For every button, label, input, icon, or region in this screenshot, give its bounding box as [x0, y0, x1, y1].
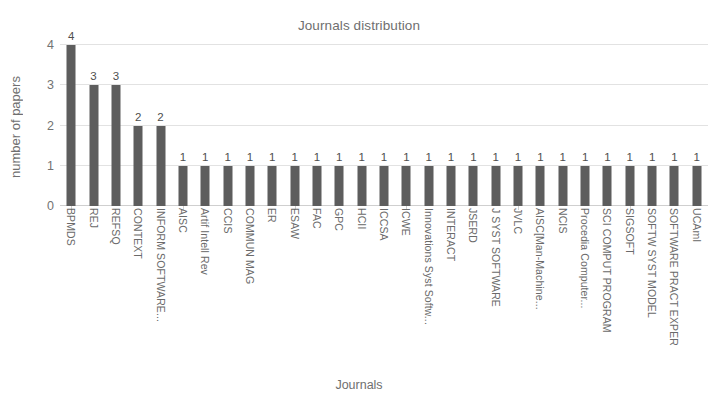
bar[interactable] — [379, 166, 388, 206]
bar[interactable] — [536, 166, 545, 206]
bar[interactable] — [245, 166, 254, 206]
x-axis-label: SIGSOFT — [624, 208, 636, 255]
bar-slot[interactable]: 1 — [373, 45, 395, 206]
bar-value-label: 3 — [113, 70, 119, 82]
bar-slot[interactable]: 1 — [350, 45, 372, 206]
bar[interactable] — [89, 85, 98, 206]
x-axis-label: ICCSA — [378, 208, 390, 241]
x-axis-label: INTERACT — [445, 208, 457, 261]
y-tick-label-0: 0 — [47, 199, 54, 213]
bar-slot[interactable]: 1 — [261, 45, 283, 206]
bar[interactable] — [312, 166, 321, 206]
bar-value-label: 1 — [537, 151, 543, 163]
x-axis-label: JVLC — [512, 208, 524, 234]
bar[interactable] — [424, 166, 433, 206]
bar[interactable] — [402, 166, 411, 206]
bar-slot[interactable]: 1 — [619, 45, 641, 206]
bar-slot[interactable]: 1 — [507, 45, 529, 206]
x-axis-label: NCIS — [557, 208, 569, 234]
x-axis-label: REJ — [88, 208, 100, 228]
journals-distribution-chart: Journals distribution number of papers 0… — [0, 0, 718, 418]
bar-slot[interactable]: 4 — [60, 45, 82, 206]
bar-slot[interactable]: 1 — [306, 45, 328, 206]
bar-slot[interactable]: 1 — [641, 45, 663, 206]
bar[interactable] — [201, 166, 210, 206]
x-axis-label: SOFTWARE PRACT EXPER — [668, 208, 680, 346]
bar-value-label: 3 — [90, 70, 96, 82]
bar-value-label: 1 — [470, 151, 476, 163]
bar-slot[interactable]: 1 — [239, 45, 261, 206]
bar-value-label: 1 — [493, 151, 499, 163]
bar[interactable] — [447, 166, 456, 206]
bars-series: 43322111111111111111111111111 — [60, 45, 708, 206]
bar-value-label: 1 — [425, 151, 431, 163]
bar[interactable] — [156, 126, 165, 207]
bar-slot[interactable]: 1 — [216, 45, 238, 206]
bar[interactable] — [692, 166, 701, 206]
bar-slot[interactable]: 1 — [440, 45, 462, 206]
y-tick-label-3: 3 — [47, 78, 54, 92]
bar-slot[interactable]: 1 — [529, 45, 551, 206]
x-axis-label: AISC — [177, 208, 189, 233]
bar-value-label: 1 — [515, 151, 521, 163]
x-axis-label: FAC — [311, 208, 323, 229]
bar-slot[interactable]: 3 — [105, 45, 127, 206]
bar[interactable] — [335, 166, 344, 206]
bar-slot[interactable]: 1 — [574, 45, 596, 206]
bar-value-label: 1 — [560, 151, 566, 163]
bar[interactable] — [357, 166, 366, 206]
bar[interactable] — [178, 166, 187, 206]
bar[interactable] — [223, 166, 232, 206]
bar[interactable] — [514, 166, 523, 206]
bar-slot[interactable]: 1 — [462, 45, 484, 206]
bar-slot[interactable]: 2 — [149, 45, 171, 206]
bar[interactable] — [603, 166, 612, 206]
x-axis-label: SOFTW SYST MODEL — [646, 208, 658, 318]
bar[interactable] — [290, 166, 299, 206]
bar-slot[interactable]: 1 — [395, 45, 417, 206]
bar[interactable] — [670, 166, 679, 206]
bar-slot[interactable]: 1 — [283, 45, 305, 206]
bar[interactable] — [581, 166, 590, 206]
bar-slot[interactable]: 2 — [127, 45, 149, 206]
bar-slot[interactable]: 1 — [663, 45, 685, 206]
bar[interactable] — [491, 166, 500, 206]
bar-value-label: 1 — [269, 151, 275, 163]
bar-slot[interactable]: 1 — [485, 45, 507, 206]
x-axis-label: CONTEXT — [132, 208, 144, 259]
bar-value-label: 1 — [627, 151, 633, 163]
bar-value-label: 1 — [403, 151, 409, 163]
bar-slot[interactable]: 3 — [82, 45, 104, 206]
bar[interactable] — [625, 166, 634, 206]
bar[interactable] — [469, 166, 478, 206]
bar[interactable] — [111, 85, 120, 206]
bar[interactable] — [648, 166, 657, 206]
bar-value-label: 1 — [694, 151, 700, 163]
bar[interactable] — [558, 166, 567, 206]
x-axis-label: Artif Intell Rev — [199, 208, 211, 275]
bar-slot[interactable]: 1 — [552, 45, 574, 206]
bar[interactable] — [268, 166, 277, 206]
x-axis-label: Procedia Computer... — [579, 208, 591, 309]
bar-value-label: 1 — [202, 151, 208, 163]
x-axis-label: JSERD — [467, 208, 479, 243]
bar[interactable] — [67, 45, 76, 206]
bar-slot[interactable]: 1 — [686, 45, 708, 206]
x-axis-label: J SYST SOFTWARE — [490, 208, 502, 307]
bar-value-label: 1 — [291, 151, 297, 163]
bar-slot[interactable]: 1 — [172, 45, 194, 206]
bar-value-label: 1 — [671, 151, 677, 163]
y-tick-label-1: 1 — [47, 159, 54, 173]
x-axis-category-labels: BPMDSREJREFSQCONTEXTINFORM SOFTWARE...AI… — [60, 208, 708, 368]
bar-slot[interactable]: 1 — [194, 45, 216, 206]
x-axis-label: GPC — [333, 208, 345, 231]
x-axis-label: ICWE — [400, 208, 412, 236]
bar-value-label: 2 — [135, 111, 141, 123]
bar-value-label: 1 — [336, 151, 342, 163]
bar-slot[interactable]: 1 — [596, 45, 618, 206]
bar-slot[interactable]: 1 — [328, 45, 350, 206]
bar[interactable] — [134, 126, 143, 207]
bar-slot[interactable]: 1 — [418, 45, 440, 206]
x-axis-label: ESAW — [289, 208, 301, 239]
y-axis-tick-labels: 01234 — [28, 45, 54, 206]
